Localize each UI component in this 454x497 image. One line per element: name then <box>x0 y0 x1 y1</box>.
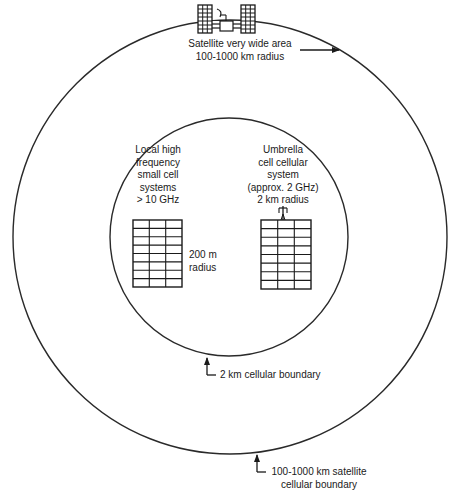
umbrella-label-line4: (approx. 2 GHz) <box>243 182 323 195</box>
local-label-line5: > 10 GHz <box>124 194 192 207</box>
outer-boundary-line1: 100-1000 km satellite <box>264 466 374 479</box>
local-radius-line2: radius <box>189 262 217 275</box>
local-label-line4: systems <box>124 182 192 195</box>
local-radius-label: 200 m radius <box>189 249 217 274</box>
outer-boundary-line2: cellular boundary <box>264 479 374 492</box>
outer-satellite-boundary-circle <box>13 20 447 454</box>
outer-boundary-label: 100-1000 km satellite cellular boundary <box>264 466 374 491</box>
inner-boundary-pointer <box>207 358 216 375</box>
satellite-coverage-label: Satellite very wide area 100-1000 km rad… <box>185 38 295 63</box>
satellite-label-line1: Satellite very wide area <box>185 38 295 51</box>
umbrella-label-line1: Umbrella <box>243 144 323 157</box>
building-icon <box>133 220 182 287</box>
umbrella-label-line5: 2 km radius <box>243 194 323 207</box>
inner-boundary-label: 2 km cellular boundary <box>220 369 321 382</box>
umbrella-label-line3: system <box>243 169 323 182</box>
local-label-line1: Local high <box>124 144 192 157</box>
umbrella-cell-label: Umbrella cell cellular system (approx. 2… <box>243 144 323 207</box>
cell-coverage-diagram <box>0 0 454 497</box>
local-label-line3: small cell <box>124 169 192 182</box>
local-small-cell-label: Local high frequency small cell systems … <box>124 144 192 207</box>
local-label-line2: frequency <box>124 157 192 170</box>
umbrella-label-line2: cell cellular <box>243 157 323 170</box>
antenna-icon <box>279 206 287 220</box>
local-radius-line1: 200 m <box>189 249 217 262</box>
building-with-antenna-icon <box>261 206 311 289</box>
satellite-label-line2: 100-1000 km radius <box>185 51 295 64</box>
